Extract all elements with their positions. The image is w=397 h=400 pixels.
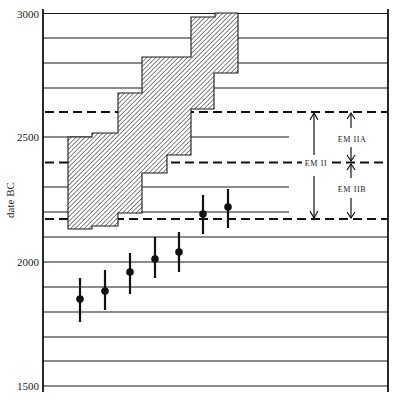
tick-2000: 2000 — [17, 256, 40, 268]
data-point-1 — [76, 278, 84, 322]
tick-1500: 1500 — [17, 380, 40, 392]
em2-label: EM II — [305, 159, 327, 168]
em2b-label: EM IIB — [338, 185, 366, 194]
y-axis-title: date BC — [4, 182, 16, 218]
data-point-4 — [151, 237, 159, 278]
data-point-5 — [175, 232, 183, 272]
tick-2500: 2500 — [17, 131, 40, 143]
em2a-em2b-arrows — [347, 113, 355, 218]
chart: 3000 2500 2000 1500 date BC EM II EM IIA… — [0, 0, 397, 400]
tick-3000: 3000 — [17, 8, 40, 20]
hatched-date-range — [68, 13, 238, 229]
data-point-2 — [101, 270, 109, 310]
data-point-7 — [224, 189, 232, 228]
y-tick-labels: 3000 2500 2000 1500 — [17, 8, 40, 392]
em2a-label: EM IIA — [338, 135, 367, 144]
data-point-6 — [199, 195, 207, 234]
data-point-3 — [126, 253, 134, 294]
